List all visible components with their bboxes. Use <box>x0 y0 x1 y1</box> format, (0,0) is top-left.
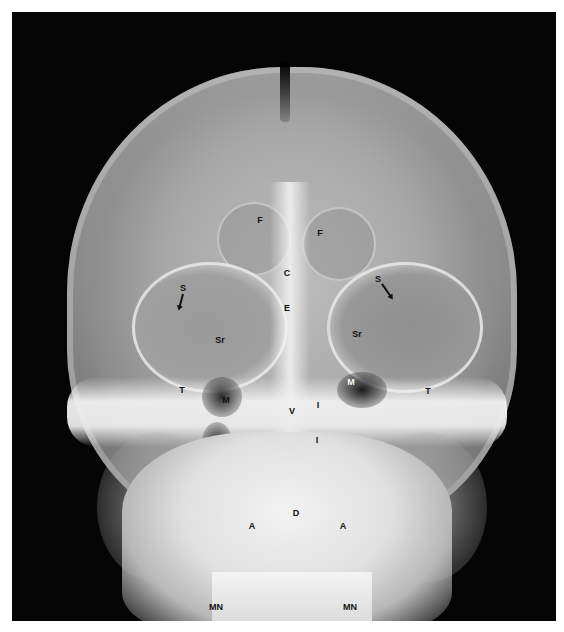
label-inferior-turbinate: I <box>317 401 320 410</box>
label-mandible: MN <box>209 603 223 612</box>
label-frontal-sinus: F <box>317 229 323 238</box>
label-mandible: MN <box>343 603 357 612</box>
skull-radiograph <box>12 12 556 621</box>
label-dens: D <box>293 509 300 518</box>
label-ethmoid: E <box>284 304 290 313</box>
label-maxillary-sinus: M <box>347 378 355 387</box>
label-superior-orbital-rim: Sr <box>352 330 362 339</box>
label-temporal: T <box>179 386 185 395</box>
sagittal-suture <box>280 62 290 122</box>
label-atlas: A <box>340 522 347 531</box>
orbit-left <box>132 262 288 393</box>
maxillary-sinus-right <box>337 372 387 408</box>
label-inferior-turbinate: I <box>316 436 319 445</box>
label-temporal: T <box>425 387 431 396</box>
label-sphenoid-wing: S <box>180 284 186 293</box>
label-sphenoid-wing: S <box>375 275 381 284</box>
label-maxillary-sinus: M <box>222 396 230 405</box>
label-vomer: V <box>289 407 295 416</box>
label-atlas: A <box>249 522 256 531</box>
label-crista-galli: C <box>284 269 291 278</box>
label-superior-orbital-rim: Sr <box>215 336 225 345</box>
cervical-spine <box>212 572 372 621</box>
label-frontal-sinus: F <box>257 216 263 225</box>
